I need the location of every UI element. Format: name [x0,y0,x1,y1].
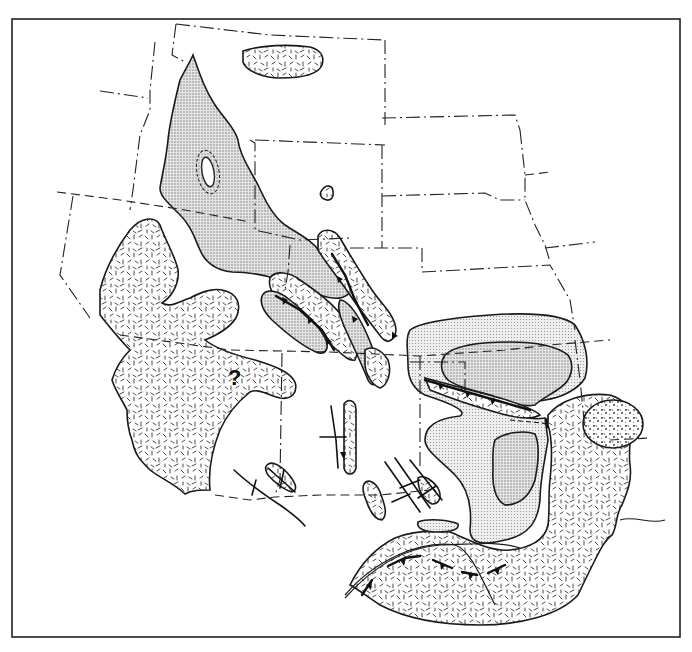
stipple-region-northwest [160,55,352,298]
uncertain-question-mark: ? [228,365,241,390]
fold-axis-2 [234,470,305,526]
dash-lens-2 [363,481,385,520]
paleogeographic-map: ? [0,0,692,652]
small-island [320,186,333,200]
coarse-stipple-oval [583,400,643,448]
river-east [620,519,665,522]
dash-region-north [243,45,323,78]
stipple-lens-south [418,520,459,532]
